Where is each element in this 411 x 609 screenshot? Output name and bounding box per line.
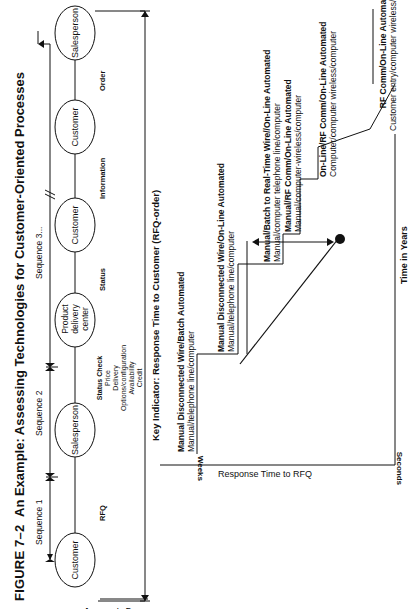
step-6-title: RF Comm/On-Line Automated xyxy=(378,0,388,131)
link-information: Information xyxy=(98,158,107,199)
node-customer-2: Customer xyxy=(62,198,88,252)
sequence-1-label: Sequence 1 xyxy=(34,500,44,545)
step-3-title: Manual/Batch to Real-Time Wire//On-Line … xyxy=(262,50,272,262)
status-check-detail: Availability xyxy=(128,343,136,413)
link-status: Status xyxy=(98,268,107,291)
step-5-subtitle: Computer/computer wireless/computer xyxy=(328,21,338,177)
node-customer-3: Customer xyxy=(62,100,88,154)
status-check-detail: Credit xyxy=(136,343,144,413)
step-2-title: Manual Disconnected Wire/On-Line Automat… xyxy=(216,163,226,352)
y-axis-label: Response Time to RFQ xyxy=(218,469,312,479)
step-6-subtitle: Customer entry/computer wireless/compute… xyxy=(388,0,398,131)
y-bottom-label-seconds: Seconds xyxy=(395,452,404,485)
key-indicator-label: Key Indicator: Response Time to Customer… xyxy=(150,190,161,441)
node-salesperson-2: Salesperson xyxy=(62,6,88,60)
sequence-2-label: Sequence 2 xyxy=(34,391,44,436)
step-2-subtitle: Manual/telephone line/computer xyxy=(226,163,236,352)
step-3: Manual/Batch to Real-Time Wire//On-Line … xyxy=(262,50,282,262)
node-customer-1: Customer xyxy=(62,533,88,587)
step-5-title: On-Line/RF Comm/On-Line Automated xyxy=(318,21,328,177)
y-top-label-weeks: Weeks xyxy=(196,456,205,481)
step-1-subtitle: Manual/telephone line/computer xyxy=(186,272,196,453)
link-status-check: Status Check Price Delivery Options/conf… xyxy=(96,343,144,413)
step-2: Manual Disconnected Wire/On-Line Automat… xyxy=(216,163,236,352)
step-4-title: Manual/RF Comm/On-Line Automated xyxy=(283,79,293,232)
step-5: On-Line/RF Comm/On-Line Automated Comput… xyxy=(318,21,338,177)
x-axis-label: Time in Years xyxy=(399,226,409,284)
status-check-detail: Price xyxy=(104,343,112,413)
node-product-delivery-center: Product delivery center xyxy=(62,292,88,346)
status-check-label: Status Check xyxy=(96,343,104,413)
link-order: Order xyxy=(98,71,107,91)
rotated-page: FIGURE 7–2 An Example: Assessing Technol… xyxy=(0,0,411,609)
step-1-title: Manual Disconnected Wire/Batch Automated xyxy=(176,272,186,453)
step-4-subtitle: Manual/computer-wireless/computer xyxy=(293,79,303,232)
status-check-detail: Options/configuration xyxy=(120,343,128,413)
node-salesperson-1: Salesperson xyxy=(62,403,88,457)
step-1: Manual Disconnected Wire/Batch Automated… xyxy=(176,272,196,453)
sequence-3-label: Sequence 3... xyxy=(34,227,44,279)
step-4: Manual/RF Comm/On-Line Automated Manual/… xyxy=(283,79,303,232)
step-6: RF Comm/On-Line Automated Customer entry… xyxy=(378,0,398,131)
step-3-subtitle: Manual/computer telephone line/computer xyxy=(272,50,282,262)
link-rfq: RFQ xyxy=(98,505,107,521)
status-check-detail: Delivery xyxy=(112,343,120,413)
